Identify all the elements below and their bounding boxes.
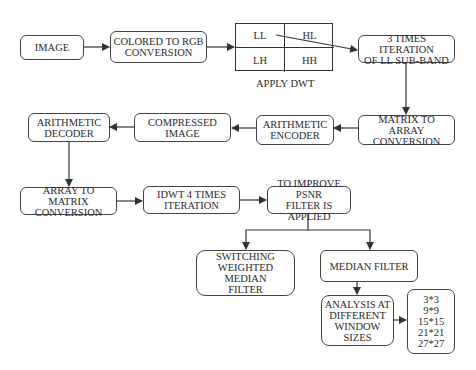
rgb-conversion-label: COLORED TO RGB CONVERSION	[113, 36, 203, 58]
median-filter-label: MEDIAN FILTER	[329, 261, 408, 272]
compressed-image-node: COMPRESSED IMAGE	[134, 113, 231, 142]
matrix-to-array-node: MATRIX TO ARRAY CONVERSION	[358, 115, 455, 145]
window-sizes-label: 3*3 9*9 15*15 21*21 27*27	[418, 294, 444, 349]
ll-iteration-label: 3 TIMES ITERATION OF LL SUB-BAND	[361, 33, 452, 66]
dwt-cell-hl: HL	[285, 24, 334, 48]
array-to-matrix-label: ARRAY TO MATRIX CONVERSION	[23, 185, 114, 218]
psnr-filter-label: TO IMPROVE PSNR FILTER IS APPLIED	[270, 178, 348, 222]
window-analysis-node: ANALYSIS AT DIFFERENT WINDOW SIZES	[321, 295, 394, 346]
dwt-cell-ll: LL	[236, 24, 285, 48]
idwt-label: IDWT 4 TIMES ITERATION	[157, 189, 226, 211]
apply-dwt-caption: APPLY DWT	[256, 78, 314, 89]
switching-weighted-median-filter-label: SWITCHING WEIGHTED MEDIAN FILTER	[199, 251, 292, 295]
window-analysis-label: ANALYSIS AT DIFFERENT WINDOW SIZES	[325, 299, 391, 343]
switching-weighted-median-filter-node: SWITCHING WEIGHTED MEDIAN FILTER	[196, 250, 295, 296]
arithmetic-decoder-label: ARITHMETIC DECODER	[37, 117, 102, 139]
arithmetic-decoder-node: ARITHMETIC DECODER	[28, 113, 110, 142]
median-filter-node: MEDIAN FILTER	[320, 250, 418, 282]
arithmetic-encoder-label: ARITHMETIC ENCODER	[263, 119, 328, 141]
ll-iteration-node: 3 TIMES ITERATION OF LL SUB-BAND	[358, 35, 455, 63]
idwt-node: IDWT 4 TIMES ITERATION	[143, 186, 240, 214]
image-node: IMAGE	[20, 35, 84, 60]
matrix-to-array-label: MATRIX TO ARRAY CONVERSION	[361, 114, 452, 147]
compressed-image-label: COMPRESSED IMAGE	[148, 117, 217, 139]
arithmetic-encoder-node: ARITHMETIC ENCODER	[256, 115, 334, 145]
dwt-cell-hh: HH	[285, 48, 334, 72]
image-node-label: IMAGE	[35, 42, 69, 53]
array-to-matrix-node: ARRAY TO MATRIX CONVERSION	[20, 187, 117, 215]
dwt-cell-lh: LH	[236, 48, 285, 72]
window-sizes-list: 3*3 9*9 15*15 21*21 27*27	[407, 289, 455, 354]
rgb-conversion-node: COLORED TO RGB CONVERSION	[110, 31, 207, 63]
dwt-subband-grid: LL HL LH HH	[235, 23, 333, 71]
psnr-filter-node: TO IMPROVE PSNR FILTER IS APPLIED	[267, 186, 351, 214]
